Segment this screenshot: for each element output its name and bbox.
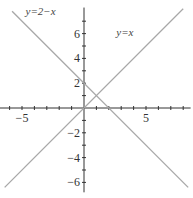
plot-area: −55642−2−4−6 y=2−xy=x: [0, 0, 193, 198]
series-line: [12, 11, 188, 187]
y-tick-label: −2: [67, 126, 80, 140]
axes: [0, 8, 191, 193]
y-tick-label: 4: [74, 51, 80, 65]
y-tick-label: 2: [74, 76, 80, 90]
chart-figure: −55642−2−4−6 y=2−xy=x: [0, 0, 193, 198]
series-lines: [5, 9, 189, 188]
line-annotation: y=2−x: [25, 5, 56, 17]
y-tick-label: 6: [74, 27, 80, 41]
series-line: [5, 9, 184, 188]
x-tick-label: 5: [143, 111, 149, 125]
y-tick-label: −4: [67, 151, 80, 165]
y-tick-label: −6: [67, 175, 80, 189]
line-annotation: y=x: [115, 26, 133, 38]
tick-marks: [10, 21, 184, 182]
x-tick-label: −5: [16, 111, 29, 125]
